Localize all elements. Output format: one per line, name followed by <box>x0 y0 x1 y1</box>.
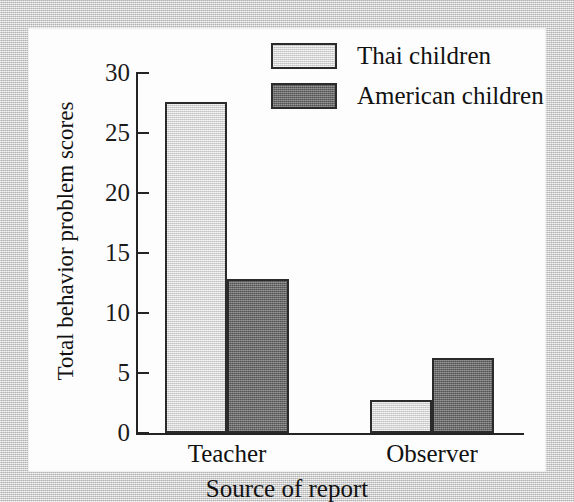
y-axis-tick-label-5: 5 <box>88 360 130 385</box>
y-axis-tick-20 <box>138 192 149 194</box>
bar-observer-thai <box>370 400 432 433</box>
chart-panel: 0 5 10 15 20 25 30 Total behavior proble… <box>28 28 546 472</box>
legend-swatch-thai-children <box>271 43 337 69</box>
x-axis-category-label-teacher: Teacher <box>147 440 307 468</box>
y-axis-title: Total behavior problem scores <box>53 71 79 411</box>
legend-label-thai-children: Thai children <box>357 42 491 70</box>
y-axis-tick-label-30: 30 <box>88 60 130 85</box>
x-axis-category-label-observer: Observer <box>352 440 512 468</box>
y-axis-tick-label-15: 15 <box>88 240 130 265</box>
chart-legend: Thai children American children <box>271 38 544 118</box>
legend-item-thai-children: Thai children <box>271 38 544 74</box>
x-axis-spine <box>136 433 524 435</box>
y-axis-tick-label-25: 25 <box>88 120 130 145</box>
y-axis-tick-0 <box>138 432 149 434</box>
bar-teacher-american <box>227 279 289 433</box>
plot-area: 0 5 10 15 20 25 30 Total behavior proble… <box>28 28 546 472</box>
figure-outer-frame: 0 5 10 15 20 25 30 Total behavior proble… <box>0 0 574 502</box>
legend-label-american-children: American children <box>357 82 544 110</box>
bar-teacher-thai <box>165 102 227 433</box>
y-axis-tick-5 <box>138 372 149 374</box>
y-axis-tick-label-20: 20 <box>88 180 130 205</box>
y-axis-tick-label-10: 10 <box>88 300 130 325</box>
x-axis-title: Source of report <box>28 475 546 502</box>
y-axis-tick-15 <box>138 252 149 254</box>
bar-observer-american <box>432 358 494 433</box>
y-axis-tick-25 <box>138 132 149 134</box>
y-axis-tick-30 <box>138 72 149 74</box>
y-axis-tick-label-0: 0 <box>88 420 130 445</box>
legend-item-american-children: American children <box>271 78 544 114</box>
y-axis-tick-10 <box>138 312 149 314</box>
legend-swatch-american-children <box>271 83 337 109</box>
